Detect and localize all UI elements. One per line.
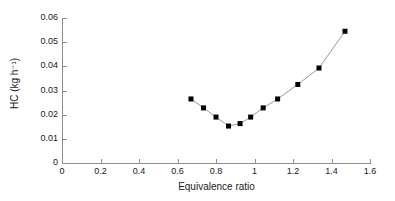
chart-figure: 00.20.40.60.811.21.41.6 00.010.020.030.0… bbox=[0, 0, 395, 201]
data-series-hc bbox=[0, 0, 395, 201]
data-point-marker bbox=[238, 121, 243, 126]
series-markers-hc bbox=[188, 29, 347, 129]
data-point-marker bbox=[295, 82, 300, 87]
data-point-marker bbox=[342, 29, 347, 34]
data-point-marker bbox=[261, 105, 266, 110]
data-point-marker bbox=[188, 96, 193, 101]
data-point-marker bbox=[316, 66, 321, 71]
data-point-marker bbox=[248, 115, 253, 120]
series-line-hc bbox=[191, 31, 345, 126]
data-point-marker bbox=[226, 124, 231, 129]
data-point-marker bbox=[275, 96, 280, 101]
data-point-marker bbox=[201, 105, 206, 110]
data-point-marker bbox=[214, 115, 219, 120]
